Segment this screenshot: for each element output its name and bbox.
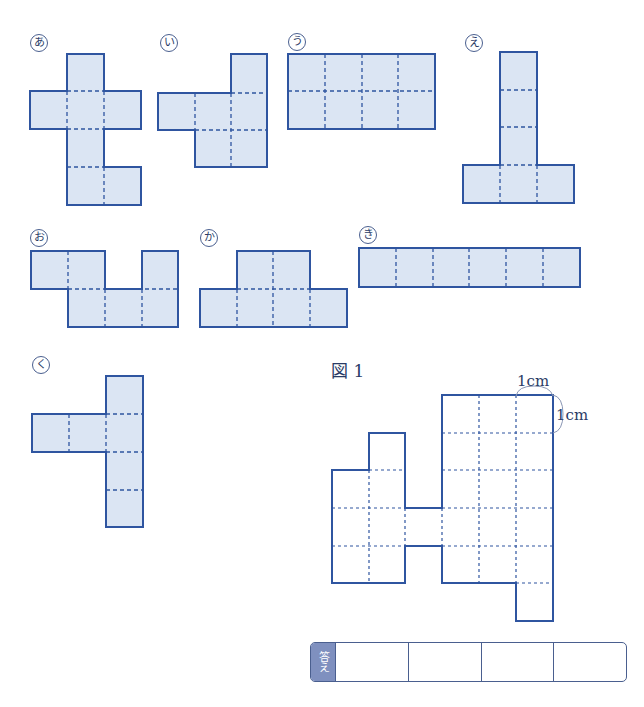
net-e [463,52,574,203]
net-label-o: お [30,229,48,247]
net-label-a: あ [30,34,48,52]
net-ki [359,248,580,287]
answer-cell-1[interactable] [335,643,408,681]
figure-1-title: 図 1 [331,357,364,382]
unit-label-side: 1cm [556,406,588,424]
net-i [158,54,267,167]
net-a [30,54,141,205]
answer-cell-2[interactable] [408,643,481,681]
answer-tag: 答え [311,643,335,681]
net-label-ka: か [200,229,218,247]
net-label-e: え [465,34,483,52]
answer-box: 答え [310,642,627,682]
figure-1-net [332,386,563,621]
net-label-ki: き [359,226,377,244]
answer-cell-3[interactable] [481,643,554,681]
net-label-u: う [288,33,306,51]
answer-cell-4[interactable] [553,643,626,681]
net-ku [32,376,143,527]
net-label-i: い [160,34,178,52]
worksheet-canvas [0,0,644,707]
net-label-ku: く [32,356,50,374]
unit-label-top: 1cm [517,372,549,390]
